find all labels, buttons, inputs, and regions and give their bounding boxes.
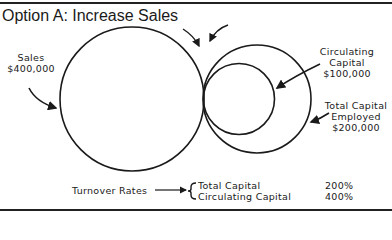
sales-label-value: $400,000 (6, 63, 56, 74)
turnover-row-value: 200% (325, 180, 353, 191)
sales-label: Sales $400,000 (6, 52, 56, 74)
total-capital-circle (203, 45, 311, 153)
turnover-row-circulating-capital: Circulating Capital 400% (198, 191, 378, 202)
turnover-row-value: 400% (325, 191, 353, 202)
circulating-capital-circle (204, 64, 275, 135)
total-capital-label-line1: Total Capital (320, 100, 392, 111)
total-capital-label-value: $200,000 (320, 122, 392, 133)
turnover-row-total-capital: Total Capital 200% (198, 180, 378, 191)
turnover-row-name: Total Capital (198, 180, 260, 191)
circulating-capital-label: Circulating Capital $100,000 (312, 46, 382, 79)
turnover-row-name: Circulating Capital (198, 191, 291, 202)
circulating-capital-label-line2: Capital (312, 57, 382, 68)
rotation-arrow-right-icon (210, 25, 228, 41)
total-capital-label: Total Capital Employed $200,000 (320, 100, 392, 133)
total-capital-label-line2: Employed (320, 111, 392, 122)
brace-icon (188, 183, 196, 199)
circulating-capital-label-value: $100,000 (312, 68, 382, 79)
turnover-rates-label: Turnover Rates (72, 185, 147, 196)
rotation-arrow-left-icon (183, 29, 199, 46)
sales-arrow-icon (29, 88, 56, 108)
bottom-rule (0, 209, 392, 211)
sales-circle (60, 27, 204, 171)
sales-label-title: Sales (6, 52, 56, 63)
circulating-capital-label-line1: Circulating (312, 46, 382, 57)
